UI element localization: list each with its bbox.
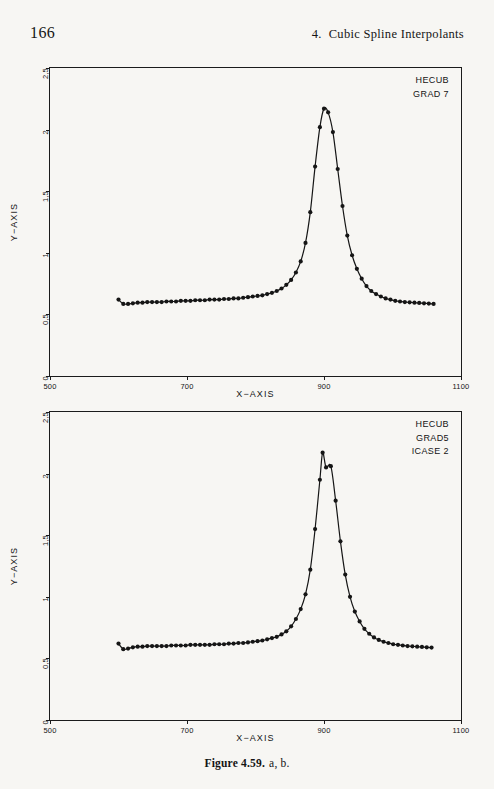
caption-number: Figure 4.59. (204, 757, 265, 769)
y-axis-label-a: Y−AXIS (9, 203, 19, 241)
y-tick-label: 0 (41, 720, 50, 724)
y-tick-label: 0,5 (41, 658, 50, 669)
chapter-title: Cubic Spline Interpolants (329, 27, 464, 41)
y-axis-label-b: Y−AXIS (9, 547, 19, 585)
plot-annotation-b: HECUBGRAD5ICASE 2 (412, 418, 449, 459)
annotation-line: HECUB (413, 74, 449, 88)
plot-area-b: HECUBGRAD5ICASE 2 00,511,522,55007009001… (49, 411, 462, 721)
plot-curve-a (50, 68, 461, 376)
y-tick-label: 1 (41, 597, 50, 601)
document-page: 166 4.Cubic Spline Interpolants Y−AXIS H… (0, 0, 494, 789)
plot-area-a: HECUBGRAD 7 00,511,522,55007009001100 (49, 67, 462, 377)
y-tick-label: 2,5 (41, 412, 50, 423)
annotation-line: GRAD5 (412, 432, 449, 446)
y-tick-label: 2 (41, 474, 50, 478)
x-tick-mark (461, 376, 462, 380)
running-head: 166 4.Cubic Spline Interpolants (0, 24, 494, 46)
page-number: 166 (30, 24, 55, 42)
x-tick-mark (50, 720, 51, 724)
x-tick-mark (50, 376, 51, 380)
caption-parts: a, b. (269, 757, 289, 769)
y-tick-label: 2 (41, 130, 50, 134)
x-tick-mark (187, 720, 188, 724)
annotation-line: ICASE 2 (412, 445, 449, 459)
plot-annotation-a: HECUBGRAD 7 (413, 74, 449, 101)
y-tick-label: 2,5 (41, 68, 50, 79)
x-tick-mark (324, 720, 325, 724)
plot-curve-b (50, 412, 461, 720)
y-tick-label: 0 (41, 376, 50, 380)
y-tick-label: 1 (41, 253, 50, 257)
x-tick-mark (324, 376, 325, 380)
annotation-line: HECUB (412, 418, 449, 432)
figure-caption: Figure 4.59.a, b. (0, 757, 494, 769)
figure-panel-a: Y−AXIS HECUBGRAD 7 00,511,522,5500700900… (0, 62, 494, 392)
x-axis-label-a: X−AXIS (49, 389, 462, 399)
chapter-header: 4.Cubic Spline Interpolants (312, 27, 464, 42)
x-tick-mark (461, 720, 462, 724)
y-tick-label: 1,5 (41, 535, 50, 546)
chapter-number: 4. (312, 27, 322, 41)
y-tick-label: 0,5 (41, 314, 50, 325)
y-tick-label: 1,5 (41, 191, 50, 202)
annotation-line: GRAD 7 (413, 88, 449, 102)
x-tick-mark (187, 376, 188, 380)
figure-panel-b: Y−AXIS HECUBGRAD5ICASE 2 00,511,522,5500… (0, 406, 494, 736)
x-axis-label-b: X−AXIS (49, 733, 462, 743)
